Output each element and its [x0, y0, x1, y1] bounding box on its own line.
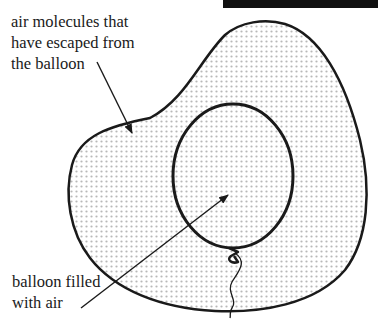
- escaped-air-label-line-1: air molecules that: [11, 11, 135, 32]
- balloon: [173, 104, 293, 248]
- diagram-canvas: air molecules that have escaped from the…: [0, 0, 378, 329]
- balloon-label-line-2: with air: [12, 292, 100, 313]
- balloon-label-line-1: balloon filled: [12, 271, 100, 292]
- escaped-air-label: air molecules that have escaped from the…: [11, 11, 135, 74]
- escaped-air-label-line-2: have escaped from: [11, 32, 135, 53]
- escaped-air-label-line-3: the balloon: [11, 53, 135, 74]
- balloon-label: balloon filled with air: [12, 271, 100, 313]
